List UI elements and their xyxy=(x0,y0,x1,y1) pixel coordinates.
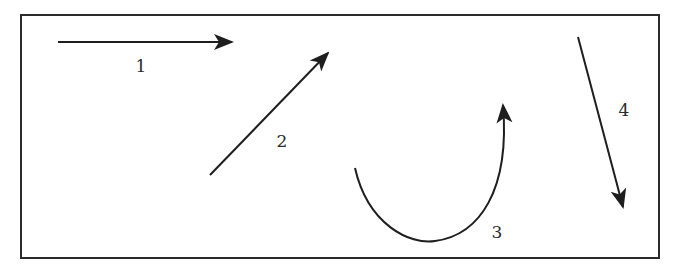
arrow-4 xyxy=(578,37,623,207)
arrow-2-label: 2 xyxy=(277,133,288,150)
arrow-3-curved xyxy=(355,105,504,241)
arrow-1-label: 1 xyxy=(136,58,147,75)
diagram-canvas xyxy=(0,0,678,272)
diagram-frame xyxy=(21,15,659,258)
arrow-3-label: 3 xyxy=(492,224,503,241)
arrow-2 xyxy=(210,53,328,175)
arrow-4-label: 4 xyxy=(619,102,630,119)
